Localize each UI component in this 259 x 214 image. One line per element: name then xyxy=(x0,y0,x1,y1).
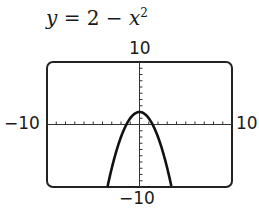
plot-area xyxy=(0,0,259,214)
